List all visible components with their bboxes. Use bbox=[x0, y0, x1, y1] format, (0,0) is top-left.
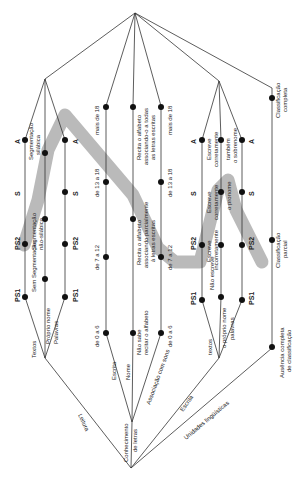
label-nao-sabe-2: recitar o alfabeto bbox=[143, 310, 149, 355]
label-s-a: S bbox=[14, 191, 21, 196]
label-textos: Textos bbox=[31, 341, 37, 358]
label-ausencia-2: de classificação bbox=[286, 329, 292, 372]
label-conhecimento-1: Conhecimento bbox=[123, 423, 129, 462]
label-seg-silabica-2: silábica bbox=[35, 134, 41, 155]
label-escreve-cor-mid-1: Escreve bbox=[206, 191, 212, 213]
label-escreve-cor-top-2: corretamente bbox=[213, 131, 219, 167]
label-e-s-b: S bbox=[248, 191, 255, 196]
label-nao-sabe-1: Não sabe bbox=[136, 329, 142, 355]
label-c-escrita: Escrita bbox=[111, 361, 117, 380]
label-as-0-6: de 0 a 6 bbox=[167, 325, 173, 347]
label-recita-todas-2: associando-o a todas bbox=[143, 108, 149, 165]
label-ps1-a: PS1 bbox=[14, 289, 21, 302]
label-proprio-nome: Próprio nome bbox=[45, 307, 51, 344]
label-seg-silabica-1: Segmentação bbox=[28, 122, 34, 160]
label-recita-todas-1: Recita o alfabeto bbox=[136, 114, 142, 160]
label-seg-nao-silabica-2: não-silábica bbox=[38, 217, 44, 250]
label-e-a-a: A bbox=[190, 139, 197, 144]
label-e-ps2-a: PS2 bbox=[190, 237, 197, 250]
label-ps2-a: PS2 bbox=[14, 237, 21, 250]
label-recita-parcial-3: à letras escritas bbox=[150, 220, 156, 262]
label-parcial-2: parcial bbox=[282, 240, 288, 258]
label-e-a-b: A bbox=[248, 139, 255, 144]
label-palavras: Palavras bbox=[53, 321, 59, 344]
label-e-palavras: palavras bbox=[229, 317, 235, 340]
label-o-pronome: o pronome bbox=[226, 181, 232, 210]
label-recita-parcial-2: associando parcialmente bbox=[143, 201, 149, 268]
label-s-b: S bbox=[72, 191, 79, 196]
label-esc-13-18: de 13 a 18 bbox=[94, 168, 100, 197]
label-as-18: mais de 18 bbox=[167, 105, 173, 135]
label-escreve-cor-top-1: Escreve bbox=[206, 138, 212, 160]
label-parcial-1: Classificação bbox=[275, 232, 281, 268]
label-as-13-18: de 13 a 18 bbox=[167, 168, 173, 197]
label-recita-todas-3: as letras escritas bbox=[150, 115, 156, 160]
label-escreve-inc-1: Escreve bbox=[206, 240, 212, 262]
tree-diagram: Leitura Conhecimento de letras Escrita U… bbox=[0, 0, 305, 481]
label-seg-nao-silabica-1: Segmentação bbox=[31, 212, 37, 250]
top-root-lines bbox=[45, 13, 272, 106]
label-escreve-inc-2: incorretamente bbox=[213, 229, 219, 270]
label-esc-0-6: de 0 a 6 bbox=[94, 325, 100, 347]
label-tambem-2: o sobrenome bbox=[232, 127, 238, 163]
label-escrita-root: Escrita bbox=[179, 394, 195, 413]
label-c-associacao: Associação com sons bbox=[145, 349, 170, 406]
label-e-proprio-nome: o próprio nome bbox=[221, 307, 227, 348]
diagram-canvas: Leitura Conhecimento de letras Escrita U… bbox=[0, 0, 305, 481]
label-e-ps1-a: PS1 bbox=[190, 292, 197, 305]
label-as-7-12: de 7 a 12 bbox=[167, 244, 173, 270]
label-e-ps2-b: PS2 bbox=[248, 237, 255, 250]
label-c-nome: Nome bbox=[125, 363, 131, 380]
label-completa-1: Classificação bbox=[275, 82, 281, 118]
label-ps2-b: PS2 bbox=[72, 237, 79, 250]
label-e-s-a: S bbox=[190, 191, 197, 196]
label-escreve-cor-mid-2: corretamente bbox=[213, 184, 219, 220]
label-leitura: Leitura bbox=[77, 413, 90, 433]
label-ausencia-1: Ausência completa bbox=[279, 327, 285, 378]
label-e-ps1-b: PS1 bbox=[248, 292, 255, 305]
label-a-a: A bbox=[14, 139, 21, 144]
label-ps1-b: PS1 bbox=[72, 289, 79, 302]
label-tambem-1: também bbox=[225, 138, 231, 160]
label-conhecimento-2: de letras bbox=[132, 429, 138, 452]
label-completa-2: completa bbox=[282, 87, 288, 112]
label-e-textos: textos bbox=[207, 339, 213, 355]
label-recita-parcial-1: Recita o alfabeto bbox=[136, 219, 142, 265]
label-unidades: Unidades lingüísticas bbox=[183, 400, 230, 441]
label-esc-18: mais de 18 bbox=[94, 105, 100, 135]
label-esc-7-12: de 7 a 12 bbox=[94, 244, 100, 270]
label-a-b: A bbox=[72, 139, 79, 144]
